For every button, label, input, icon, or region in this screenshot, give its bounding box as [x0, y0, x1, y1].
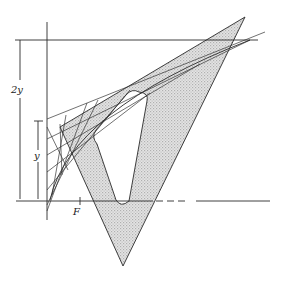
set-square: [60, 17, 245, 266]
label-2y: 2y: [10, 84, 23, 95]
label-y: y: [33, 150, 40, 161]
label-focus: F: [72, 206, 81, 217]
tangent-line: [52, 115, 66, 195]
diagram-canvas: 2y y F: [0, 0, 285, 281]
